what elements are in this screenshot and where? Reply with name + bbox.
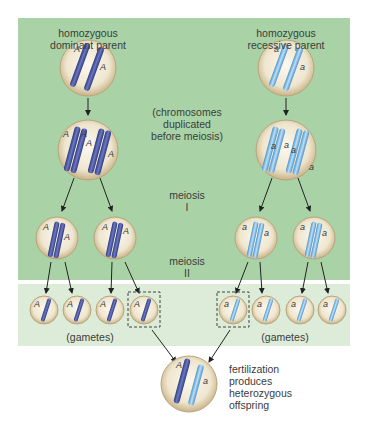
allele-A: A	[99, 62, 106, 72]
fertilization-label: fertilization produces heterozygous offs…	[229, 363, 339, 411]
svg-text:A: A	[63, 232, 70, 242]
svg-text:A: A	[62, 129, 69, 139]
svg-text:A: A	[85, 138, 92, 148]
svg-text:a: a	[257, 299, 262, 309]
label-line: homozygous	[38, 27, 138, 39]
svg-text:A: A	[66, 299, 73, 309]
label-line: duplicated	[137, 118, 237, 130]
dominant-parent-label: homozygous dominant parent	[38, 27, 138, 51]
svg-text:A: A	[42, 222, 49, 232]
recessive-meiosis1-cell-1: a a	[235, 217, 277, 259]
recessive-meiosis1-cell-2: a a	[293, 217, 335, 259]
label-line: dominant parent	[38, 39, 138, 51]
svg-text:a: a	[203, 376, 208, 386]
label-line: fertilization	[229, 363, 339, 375]
label-line: produces	[229, 375, 339, 387]
svg-text:a: a	[264, 228, 269, 238]
dominant-meiosis1-cell-2: A A	[94, 217, 136, 259]
heterozygous-offspring-cell: A a	[161, 356, 217, 412]
svg-text:A: A	[133, 299, 140, 309]
svg-text:a: a	[323, 299, 328, 309]
svg-text:a: a	[242, 222, 247, 232]
svg-text:a: a	[291, 299, 296, 309]
svg-text:A: A	[101, 222, 108, 232]
gametes-right-label: (gametes)	[250, 331, 320, 343]
recessive-duplicated-cell: a a a a	[256, 120, 316, 180]
svg-text:A: A	[175, 360, 182, 370]
gamete-A-2: A	[63, 296, 91, 324]
duplication-note: (chromosomes duplicated before meiosis)	[137, 106, 237, 142]
meiosis-2-label: meiosis II	[157, 255, 217, 279]
gametes-left-label: (gametes)	[55, 331, 125, 343]
svg-text:a: a	[309, 162, 314, 172]
svg-text:A: A	[122, 226, 129, 236]
gamete-A-1: A	[30, 296, 58, 324]
dominant-meiosis1-cell-1: A A	[36, 217, 78, 259]
svg-text:a: a	[224, 299, 229, 309]
label-line: homozygous	[233, 27, 339, 39]
svg-text:a: a	[291, 145, 296, 155]
recessive-parent-label: homozygous recessive parent	[233, 27, 339, 51]
dominant-duplicated-cell: A A A A	[58, 120, 118, 180]
label-line: heterozygous	[229, 387, 339, 399]
label-line: recessive parent	[233, 39, 339, 51]
gamete-A-3: A	[96, 296, 124, 324]
svg-text:a: a	[322, 228, 327, 238]
gamete-a-selected: a	[217, 292, 249, 327]
label-line: meiosis	[157, 189, 217, 201]
meiosis-1-label: meiosis I	[157, 189, 217, 213]
gamete-a-4: a	[318, 296, 346, 324]
label-line: before meiosis)	[137, 130, 237, 142]
label-line: I	[157, 201, 217, 213]
label-line: meiosis	[157, 255, 217, 267]
gamete-A-selected: A	[128, 292, 160, 327]
svg-text:A: A	[99, 299, 106, 309]
svg-text:A: A	[33, 299, 40, 309]
label-line: (chromosomes	[137, 106, 237, 118]
svg-text:a: a	[284, 140, 289, 150]
label-line: offspring	[229, 399, 339, 411]
label-line: II	[157, 267, 217, 279]
gamete-a-3: a	[286, 296, 314, 324]
svg-text:a: a	[300, 222, 305, 232]
gamete-a-2: a	[252, 296, 280, 324]
svg-text:a: a	[300, 62, 305, 72]
svg-text:a: a	[271, 141, 276, 151]
svg-text:A: A	[107, 149, 114, 159]
